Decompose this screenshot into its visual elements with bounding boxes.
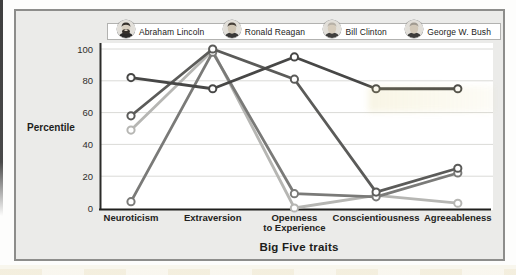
data-point-marker (209, 85, 216, 92)
legend-entry: Bill Clinton (323, 25, 386, 38)
data-point-marker (291, 190, 298, 197)
clinton-portrait-icon (323, 20, 341, 38)
legend-entry: Abraham Lincoln (117, 25, 204, 38)
data-point-marker (209, 45, 216, 52)
x-category-label: Conscientiousness (333, 212, 420, 223)
chart-svg: 020406080100NeuroticismExtraversionOpenn… (0, 0, 516, 275)
data-point-marker (291, 76, 298, 83)
legend-entry: Ronald Reagan (223, 25, 305, 38)
x-category-label: Neuroticism (104, 212, 159, 223)
y-tick-label: 80 (82, 75, 93, 86)
y-tick-label: 40 (82, 139, 93, 150)
y-axis-title: Percentile (10, 122, 92, 133)
reagan-portrait-icon (223, 20, 241, 38)
big-five-presidents-figure: 020406080100NeuroticismExtraversionOpenn… (0, 0, 516, 275)
y-tick-label: 0 (88, 203, 93, 214)
lincoln-portrait-icon (117, 20, 135, 38)
data-point-marker (127, 74, 134, 81)
y-tick-label: 100 (77, 44, 93, 55)
x-category-label: Extraversion (184, 212, 242, 223)
scan-artifact-strip (0, 269, 516, 275)
data-point-marker (454, 165, 461, 172)
data-point-marker (127, 112, 134, 119)
data-point-marker (291, 204, 298, 211)
y-tick-label: 60 (82, 107, 93, 118)
x-category-labels: NeuroticismExtraversionOpennessto Experi… (104, 212, 492, 233)
bush-portrait-icon (405, 20, 423, 38)
data-point-marker (127, 126, 134, 133)
data-point-marker (291, 53, 298, 60)
legend-label: Bill Clinton (345, 27, 386, 37)
legend: Abraham LincolnRonald ReaganBill Clinton… (107, 23, 501, 40)
legend-label: Ronald Reagan (245, 27, 305, 37)
data-point-marker (454, 200, 461, 207)
print-bleed-artifact (368, 86, 494, 112)
data-point-marker (373, 189, 380, 196)
x-axis-title: Big Five traits (199, 241, 399, 253)
legend-label: George W. Bush (427, 27, 491, 37)
x-category-label: Agreeableness (424, 212, 492, 223)
data-point-marker (127, 198, 134, 205)
x-category-label: Opennessto Experience (263, 212, 325, 233)
legend-label: Abraham Lincoln (139, 27, 204, 37)
legend-entry: George W. Bush (405, 25, 491, 38)
plot-area (100, 43, 493, 210)
y-tick-label: 20 (82, 171, 93, 182)
